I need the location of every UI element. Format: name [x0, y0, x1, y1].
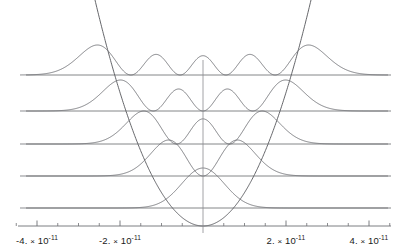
tick-label-exponent: -11 — [49, 234, 58, 241]
wavefunction-curves — [20, 45, 388, 208]
tick-label-base: 10 — [368, 235, 379, 246]
tick-label-base: 10 — [38, 235, 49, 246]
axis-group — [16, 60, 391, 233]
tick-label-base: 10 — [121, 235, 132, 246]
x-axis-tick-label: -4. × 10-11 — [16, 236, 58, 246]
quantum-harmonic-oscillator-plot: -4. × 10-11-2. × 10-112. × 10-114. × 10-… — [0, 0, 401, 252]
energy-level-lines — [26, 75, 391, 208]
plot-canvas — [0, 0, 401, 252]
multiplication-sign: × — [27, 237, 37, 246]
multiplication-sign: × — [110, 237, 120, 246]
multiplication-sign: × — [275, 237, 285, 246]
x-axis-tick-label: 4. × 10-11 — [350, 236, 389, 246]
tick-label-base: 10 — [285, 235, 296, 246]
tick-label-mantissa: -2. — [99, 235, 110, 246]
wavefunction-curve-n0 — [20, 168, 388, 208]
tick-label-exponent: -11 — [296, 234, 305, 241]
x-axis-tick-label: -2. × 10-11 — [99, 236, 141, 246]
tick-label-mantissa: -4. — [16, 235, 27, 246]
wavefunction-curve-n1 — [20, 140, 388, 176]
tick-label-mantissa: 2. — [267, 235, 275, 246]
wavefunction-curve-n2 — [20, 111, 388, 144]
tick-label-exponent: -11 — [132, 234, 141, 241]
tick-label-mantissa: 4. — [350, 235, 358, 246]
multiplication-sign: × — [358, 237, 368, 246]
wavefunction-curve-n3 — [20, 80, 388, 111]
x-axis-tick-label: 2. × 10-11 — [267, 236, 306, 246]
wavefunction-curve-n4 — [20, 45, 388, 75]
tick-label-exponent: -11 — [379, 234, 388, 241]
